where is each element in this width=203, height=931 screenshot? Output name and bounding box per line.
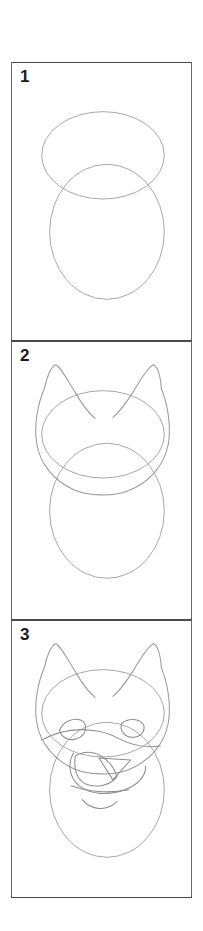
panel-number-3: 3 [20,626,29,643]
panel-number-1: 1 [20,68,29,85]
muzzle-fold [75,752,117,786]
right-eye [121,720,144,738]
lower-ellipse-guide [50,722,165,857]
tutorial-panel-step-3: 3 [11,620,192,898]
upper-ellipse-guide [42,391,165,478]
tutorial-panel-step-1: 1 [11,62,192,341]
tutorial-panel-step-2: 2 [11,341,192,620]
nose [99,758,131,780]
drawing-tutorial-sheet: 1 2 3 [0,0,203,931]
step-2-artwork [12,342,191,619]
chin-curve [82,800,117,809]
lower-ellipse-guide [50,443,165,578]
lower-ellipse-guide [50,164,165,299]
upper-ellipse-guide [42,670,165,757]
step-1-artwork [12,63,191,340]
upper-ellipse-guide [42,112,165,199]
panel-number-2: 2 [20,347,29,364]
step-3-artwork [12,621,191,897]
